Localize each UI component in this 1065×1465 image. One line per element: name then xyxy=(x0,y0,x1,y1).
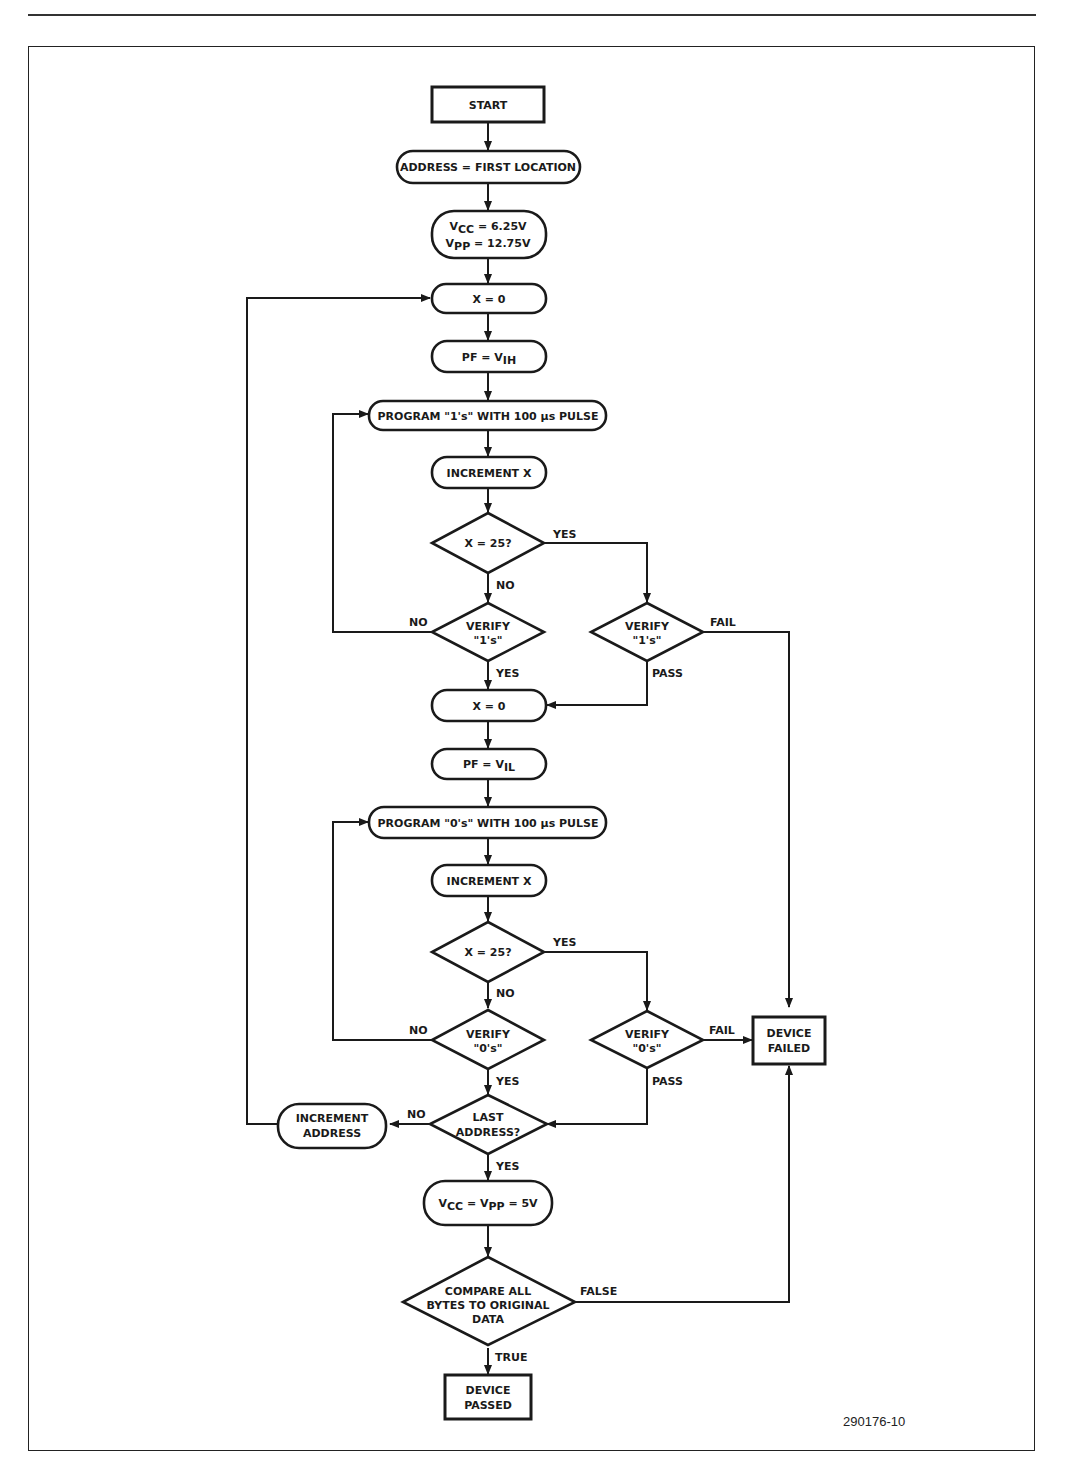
svg-text:BYTES TO ORIGINAL: BYTES TO ORIGINAL xyxy=(427,1299,550,1312)
decision-x-25-first: X = 25? xyxy=(432,513,544,573)
decision-verify-1s-right: VERIFY "1's" xyxy=(591,603,703,661)
node-device-failed: DEVICE FAILED xyxy=(753,1017,825,1064)
node-address-first-label: ADDRESS = FIRST LOCATION xyxy=(400,161,576,174)
edge-label-no: NO xyxy=(496,579,515,592)
svg-text:"1's": "1's" xyxy=(632,634,661,647)
svg-text:ADDRESS?: ADDRESS? xyxy=(456,1126,521,1139)
svg-text:"1's": "1's" xyxy=(473,634,502,647)
svg-text:INCREMENT X: INCREMENT X xyxy=(447,467,532,480)
decision-compare-bytes: COMPARE ALL BYTES TO ORIGINAL DATA xyxy=(403,1257,575,1345)
node-program-0s: PROGRAM "0's" WITH 100 μs PULSE xyxy=(369,807,606,838)
svg-text:FAILED: FAILED xyxy=(768,1042,811,1055)
edge-label-no: NO xyxy=(409,616,428,629)
edge-label-false: FALSE xyxy=(580,1285,617,1298)
node-x-equals-0-second: X = 0 xyxy=(432,690,546,721)
node-vcc-vpp-5v: VCC = VPP = 5V xyxy=(424,1181,552,1225)
svg-text:X = 0: X = 0 xyxy=(472,700,505,713)
node-set-voltages: VCC = 6.25V VPP = 12.75V xyxy=(432,211,546,258)
flowchart: START ADDRESS = FIRST LOCATION VCC = 6.2… xyxy=(0,0,1065,1465)
svg-text:VERIFY: VERIFY xyxy=(466,1028,511,1041)
decision-last-address: LAST ADDRESS? xyxy=(430,1095,547,1154)
svg-text:VERIFY: VERIFY xyxy=(625,620,670,633)
svg-text:X = 0: X = 0 xyxy=(472,293,505,306)
svg-text:DEVICE: DEVICE xyxy=(466,1384,511,1397)
svg-text:PROGRAM "0's" WITH 100 μs PULS: PROGRAM "0's" WITH 100 μs PULSE xyxy=(378,817,599,830)
decision-x-25-second: X = 25? xyxy=(432,922,544,982)
edge-label-yes: YES xyxy=(552,528,576,541)
svg-text:PROGRAM "1's" WITH 100 μs PULS: PROGRAM "1's" WITH 100 μs PULSE xyxy=(378,410,599,423)
svg-text:COMPARE ALL: COMPARE ALL xyxy=(445,1285,531,1298)
svg-text:X = 25?: X = 25? xyxy=(464,537,511,550)
decision-verify-1s-left: VERIFY "1's" xyxy=(432,603,544,661)
node-x-equals-0-first: X = 0 xyxy=(432,284,546,313)
node-program-1s: PROGRAM "1's" WITH 100 μs PULSE xyxy=(369,401,606,430)
svg-text:INCREMENT X: INCREMENT X xyxy=(447,875,532,888)
edge-label-pass: PASS xyxy=(652,1075,683,1088)
decision-verify-0s-right: VERIFY "0's" xyxy=(591,1011,703,1068)
edge-label-true: TRUE xyxy=(495,1351,527,1364)
edge-label-no: NO xyxy=(409,1024,428,1037)
svg-text:PASSED: PASSED xyxy=(464,1399,512,1412)
node-address-first-location: ADDRESS = FIRST LOCATION xyxy=(397,151,580,183)
figure-id: 290176-10 xyxy=(843,1414,905,1429)
svg-text:ADDRESS: ADDRESS xyxy=(303,1127,361,1140)
edge-label-pass: PASS xyxy=(652,667,683,680)
edge-label-fail: FAIL xyxy=(709,1024,735,1037)
edge-label-yes: YES xyxy=(495,1160,519,1173)
node-pf-vih: PF = VIH xyxy=(432,341,546,372)
svg-text:LAST: LAST xyxy=(473,1111,504,1124)
node-device-passed: DEVICE PASSED xyxy=(445,1375,531,1419)
edge-label-fail: FAIL xyxy=(710,616,736,629)
node-start: START xyxy=(432,87,544,122)
svg-text:"0's": "0's" xyxy=(632,1042,661,1055)
svg-text:X = 25?: X = 25? xyxy=(464,946,511,959)
svg-text:VERIFY: VERIFY xyxy=(466,620,511,633)
svg-text:VERIFY: VERIFY xyxy=(625,1028,670,1041)
svg-text:INCREMENT: INCREMENT xyxy=(296,1112,369,1125)
edge-label-no: NO xyxy=(496,987,515,1000)
svg-text:DEVICE: DEVICE xyxy=(767,1027,812,1040)
svg-text:DATA: DATA xyxy=(472,1313,504,1326)
svg-text:"0's": "0's" xyxy=(473,1042,502,1055)
edge-label-yes: YES xyxy=(495,1075,519,1088)
edge-label-yes: YES xyxy=(552,936,576,949)
edge-label-yes: YES xyxy=(495,667,519,680)
node-increment-x-first: INCREMENT X xyxy=(432,457,546,488)
decision-verify-0s-left: VERIFY "0's" xyxy=(432,1010,544,1069)
node-increment-address: INCREMENT ADDRESS xyxy=(278,1104,386,1148)
node-pf-vil: PF = VIL xyxy=(432,749,546,779)
node-start-label: START xyxy=(469,99,508,112)
node-increment-x-second: INCREMENT X xyxy=(432,865,546,896)
edge-label-no: NO xyxy=(407,1108,426,1121)
